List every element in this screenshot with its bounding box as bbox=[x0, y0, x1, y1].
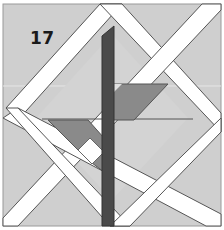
block-number-label: 17 bbox=[30, 28, 55, 48]
quilt-block: 17 bbox=[0, 0, 224, 230]
stem bbox=[102, 26, 114, 226]
